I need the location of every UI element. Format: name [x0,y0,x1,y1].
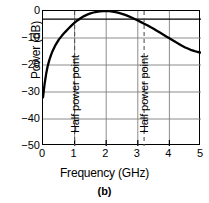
y-tick-0: 0 [13,5,40,16]
horizontal-gridlines [43,38,201,119]
x-tick-1: 1 [64,147,84,159]
upper-half-power-label: Half power point [138,55,150,133]
x-tick-4: 4 [158,147,178,159]
plot-canvas [43,11,201,146]
lower-half-power-label: Half power point [69,55,81,133]
y-tick--40: −40 [13,113,40,124]
y-tick--20: −20 [13,59,40,70]
power-response-curve [43,11,201,97]
x-tick-2: 2 [95,147,115,159]
x-axis-tick-marks [75,140,170,146]
figure-caption: (b) [0,185,209,197]
x-tick-3: 3 [127,147,147,159]
x-axis-tick-labels: 0 1 2 3 4 5 [42,147,200,163]
x-tick-0: 0 [32,147,52,159]
vertical-gridlines [75,11,170,146]
y-tick--30: −30 [13,86,40,97]
plot-area: Half power point Half power point [42,10,200,145]
y-tick--10: −10 [13,32,40,43]
figure-b-bandwidth-plot: Power (dB) 0 −10 −20 −30 −40 −50 [0,0,209,203]
x-axis-label: Frequency (GHz) [0,166,209,180]
x-tick-5: 5 [190,147,209,159]
